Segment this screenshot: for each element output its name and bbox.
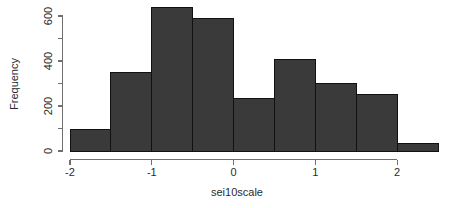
y-axis-tick-label: 0 — [42, 148, 54, 154]
histogram-bar — [111, 72, 152, 151]
y-axis-tick-label: 400 — [42, 52, 54, 70]
histogram-bar — [356, 95, 397, 151]
x-axis-tick-label: 1 — [312, 166, 318, 178]
y-axis-tick-label: 200 — [42, 97, 54, 115]
histogram-bar — [70, 130, 111, 151]
plot-canvas: 0200400600 -2-1012 sei10scale Frequency — [0, 0, 460, 208]
x-axis-tick-label: -2 — [65, 166, 75, 178]
y-axis-title: Frequency — [8, 58, 20, 110]
y-axis-tick-label: 600 — [42, 7, 54, 25]
histogram-bar — [315, 84, 356, 152]
histogram-bar — [193, 18, 234, 151]
histogram-bar — [234, 98, 275, 151]
x-axis-title: sei10scale — [211, 186, 263, 198]
histogram-bar — [397, 143, 438, 151]
x-axis-tick-label: -1 — [147, 166, 157, 178]
histogram-bar — [152, 7, 193, 151]
x-axis-tick-label: 2 — [394, 166, 400, 178]
histogram-plot: 0200400600 -2-1012 sei10scale Frequency — [0, 0, 460, 208]
x-axis-tick-label: 0 — [230, 166, 236, 178]
histogram-bar — [274, 60, 315, 151]
